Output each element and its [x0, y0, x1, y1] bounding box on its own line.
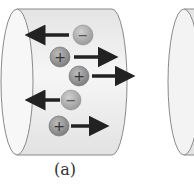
cylinder-b	[168, 9, 194, 155]
cylinder-b-front-face	[168, 9, 194, 155]
panel-caption-a: (a)	[0, 160, 130, 180]
charge-sign: +	[54, 49, 66, 65]
charge-sign: −	[66, 93, 77, 108]
charge-sign: +	[73, 68, 85, 84]
cylinder-a-front-face	[1, 9, 33, 155]
charge-sign: −	[78, 28, 89, 43]
charge-sign: +	[53, 118, 65, 134]
conductor-diagram: − + + − +	[0, 0, 194, 186]
